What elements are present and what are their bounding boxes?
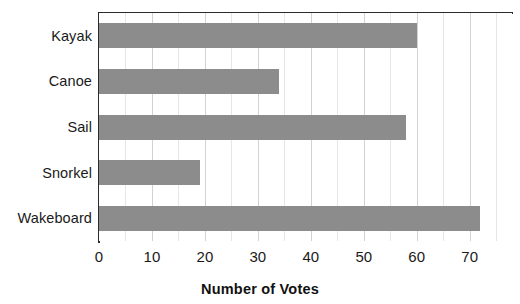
x-tick-label: 0 xyxy=(95,249,103,264)
bar xyxy=(99,160,200,185)
x-axis-title: Number of Votes xyxy=(0,281,520,297)
category-label: Snorkel xyxy=(0,166,92,181)
category-label: Canoe xyxy=(0,74,92,89)
bar xyxy=(99,69,279,94)
x-tick-label: 10 xyxy=(144,249,161,264)
gridline-minor xyxy=(496,13,497,241)
bar xyxy=(99,23,417,48)
bar-chart: KayakCanoeSailSnorkelWakeboard Number of… xyxy=(0,0,520,304)
bar xyxy=(99,115,406,140)
category-axis: KayakCanoeSailSnorkelWakeboard xyxy=(0,13,92,241)
x-tick-label: 60 xyxy=(408,249,425,264)
x-tick-label: 30 xyxy=(250,249,267,264)
category-label: Kayak xyxy=(0,29,92,44)
bar xyxy=(99,206,480,231)
category-label: Sail xyxy=(0,120,92,135)
x-tick-label: 50 xyxy=(355,249,372,264)
plot-area xyxy=(99,13,512,241)
x-tick-label: 40 xyxy=(302,249,319,264)
x-tick-label: 70 xyxy=(461,249,478,264)
x-tick-label: 20 xyxy=(197,249,214,264)
category-label: Wakeboard xyxy=(0,211,92,226)
